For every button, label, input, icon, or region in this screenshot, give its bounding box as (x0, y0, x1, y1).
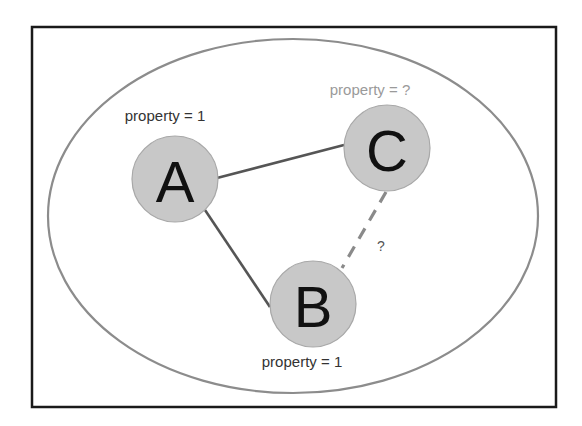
node-a: A (132, 136, 218, 222)
node-b: B (270, 261, 356, 347)
node-c-property-label: property = ? (330, 81, 410, 98)
edge-c-b-dashed (342, 192, 386, 268)
node-c-letter: C (366, 118, 408, 183)
edge-c-b-label: ? (377, 238, 385, 254)
node-b-property-label: property = 1 (262, 353, 342, 370)
node-a-property-label: property = 1 (125, 107, 205, 124)
diagram-frame (32, 27, 556, 407)
node-c: C (344, 105, 430, 191)
node-b-letter: B (294, 274, 333, 339)
node-a-letter: A (156, 149, 195, 214)
edge-a-b (205, 210, 270, 307)
edge-a-c (217, 145, 344, 178)
graph-diagram: ? A property = 1 C property = ? B proper… (0, 0, 582, 426)
